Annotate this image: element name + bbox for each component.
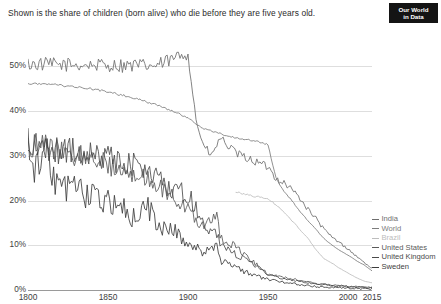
x-tick-label-2015: 2015 bbox=[363, 292, 382, 302]
logo-line-1: Our World bbox=[398, 6, 428, 13]
legend-swatch-icon bbox=[372, 219, 379, 220]
legend-item-world[interactable]: World bbox=[372, 224, 401, 234]
legend-item-sweden[interactable]: Sweden bbox=[372, 262, 409, 272]
legend-label: United States bbox=[382, 243, 428, 253]
x-tick-label-1850: 1850 bbox=[99, 292, 118, 302]
legend-label: United Kingdom bbox=[382, 252, 436, 262]
legend-item-united-states[interactable]: United States bbox=[372, 243, 427, 253]
series-line-brazil bbox=[236, 192, 372, 283]
y-tick-label-40: 40% bbox=[2, 106, 26, 115]
x-tick-label-1900: 1900 bbox=[179, 292, 198, 302]
series-line-world bbox=[28, 83, 372, 271]
legend-label: World bbox=[382, 224, 402, 234]
y-axis: 0%10%20%30%40%50% bbox=[0, 44, 26, 290]
y-tick-label-30: 30% bbox=[2, 151, 26, 160]
y-tick-label-20: 20% bbox=[2, 196, 26, 205]
legend-swatch-icon bbox=[372, 247, 379, 248]
legend-swatch-icon bbox=[372, 238, 379, 239]
x-tick-label-2000: 2000 bbox=[339, 292, 358, 302]
legend-label: Brazil bbox=[382, 233, 401, 243]
x-axis: 180018501900195020002015 bbox=[28, 292, 372, 304]
series-lines bbox=[28, 44, 372, 290]
gridline-0 bbox=[28, 290, 372, 291]
legend-swatch-icon bbox=[372, 267, 379, 268]
logo-line-2: in Data bbox=[403, 13, 424, 20]
our-world-in-data-logo[interactable]: Our World in Data bbox=[389, 3, 438, 23]
legend-swatch-icon bbox=[372, 228, 379, 229]
legend-item-united-kingdom[interactable]: United Kingdom bbox=[372, 252, 436, 262]
chart-legend: IndiaWorldBrazilUnited StatesUnited King… bbox=[372, 210, 441, 272]
x-tick-label-1800: 1800 bbox=[19, 292, 38, 302]
plot-area bbox=[28, 44, 372, 290]
y-tick-label-50: 50% bbox=[2, 61, 26, 70]
chart-subtitle: Shown is the share of children (born ali… bbox=[8, 8, 378, 19]
legend-item-brazil[interactable]: Brazil bbox=[372, 233, 401, 243]
series-line-united-states bbox=[28, 135, 372, 288]
legend-swatch-icon bbox=[372, 257, 379, 258]
legend-label: Sweden bbox=[382, 262, 409, 272]
legend-item-india[interactable]: India bbox=[372, 214, 398, 224]
x-tick-label-1950: 1950 bbox=[259, 292, 278, 302]
y-tick-label-10: 10% bbox=[2, 240, 26, 249]
legend-label: India bbox=[382, 214, 398, 224]
